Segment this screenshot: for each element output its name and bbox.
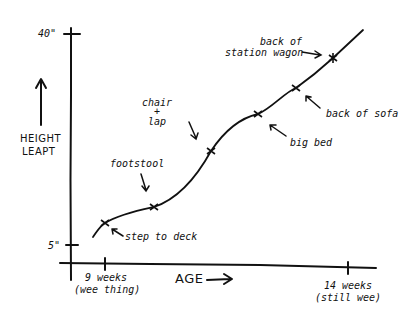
- annotation-step-to-deck: step to deck: [125, 231, 197, 242]
- annotation-big-bed: big bed: [290, 137, 332, 148]
- x-axis-label: AGE: [175, 272, 203, 286]
- xlabel-arrow-icon: [207, 274, 232, 284]
- data-line: [93, 30, 363, 237]
- annotation-footstool: footstool: [110, 158, 164, 169]
- x-tick-sublabel-9: (wee thing): [74, 284, 140, 295]
- x-tick-sublabel-14: (still wee): [314, 292, 382, 303]
- arrow-wagon-icon: [302, 51, 321, 58]
- y-axis-label-line2: LEAPT: [22, 146, 55, 157]
- arrow-bigbed-icon: [270, 125, 286, 136]
- annotation-back-of-sofa: back of sofa: [326, 108, 398, 119]
- arrow-chair-icon: [189, 122, 198, 139]
- y-tick-label-5: 5": [48, 240, 60, 251]
- y-tick-label-40: 40": [38, 28, 56, 39]
- point-chair-lap: [207, 148, 215, 154]
- x-axis: [60, 263, 376, 268]
- arrow-sofa-icon: [306, 96, 320, 108]
- y-axis: [71, 28, 72, 280]
- x-tick-label-9: 9 weeks: [78, 272, 134, 283]
- annotation-wagon-line1: back of: [236, 36, 326, 47]
- x-tick-label-14: 14 weeks: [318, 280, 378, 291]
- ylabel-arrow-icon: [36, 79, 46, 125]
- y-axis-label-line1: HEIGHT: [20, 133, 61, 144]
- point-step-to-deck: [101, 220, 109, 226]
- annotation-lap: lap: [140, 116, 174, 127]
- arrow-footstool-icon: [141, 174, 149, 191]
- chart-canvas: [0, 0, 410, 323]
- point-back-of-sofa: [292, 85, 300, 91]
- arrow-step-icon: [112, 229, 123, 236]
- annotation-wagon-line2: station wagon: [225, 47, 303, 58]
